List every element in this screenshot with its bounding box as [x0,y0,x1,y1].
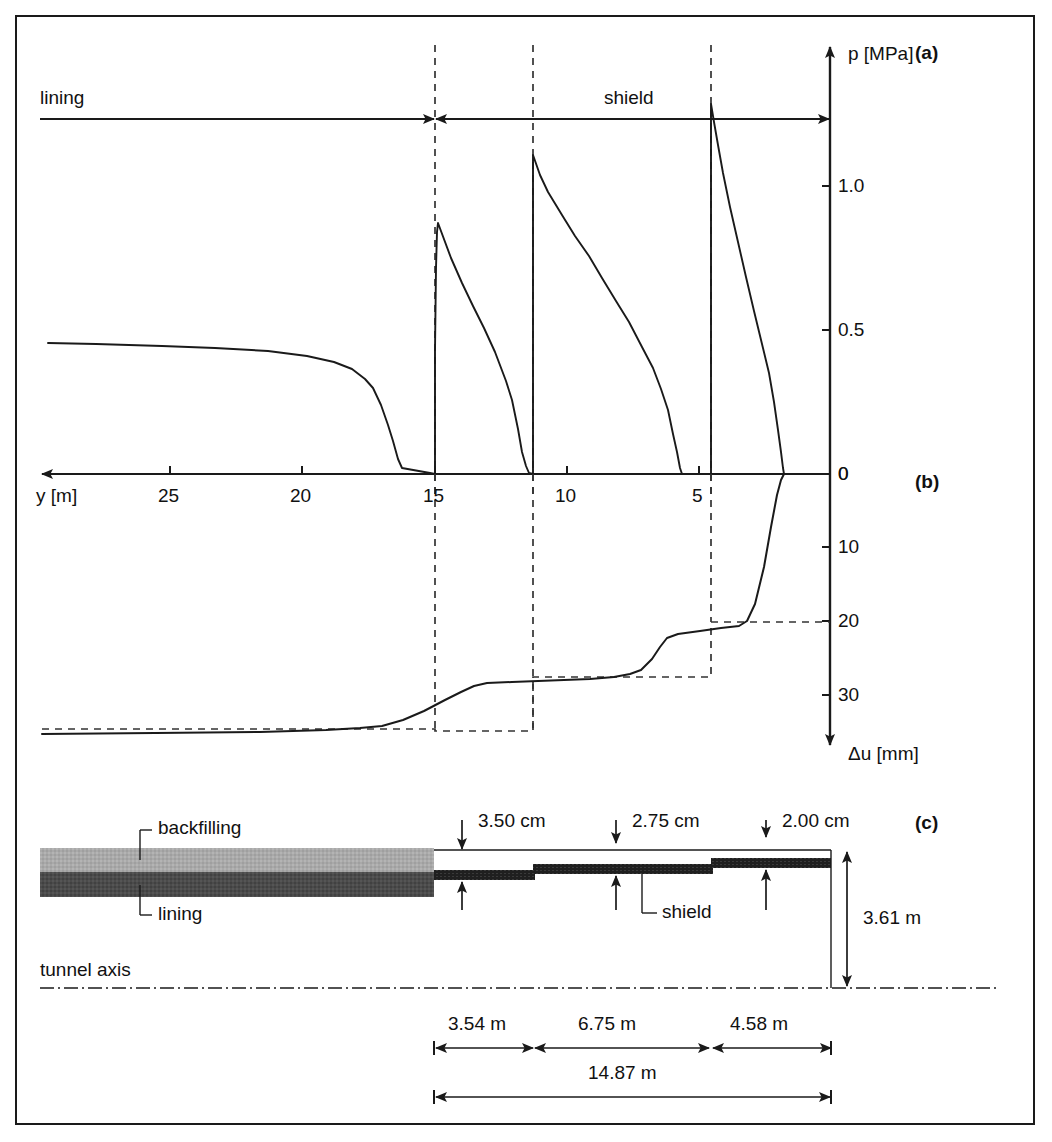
panel-a-xtick-5: 5 [692,486,703,505]
panel-label-a: (a) [915,43,938,62]
panel-label-c: (c) [915,813,938,832]
gap-dimension-1: 3.50 cm [478,811,546,830]
length-dimension-2: 6.75 m [578,1014,636,1033]
panel-b-axis-symbol: Δu [848,743,871,764]
panel-label-b: (b) [915,472,939,491]
panel-a-axis-label: p [MPa] [848,44,913,63]
panel-a-x-axis-symbol: y [36,485,46,506]
gap-dimension-2: 2.75 cm [632,811,700,830]
region-label-shield: shield [604,88,654,107]
panel-a-xtick-20: 20 [290,486,311,505]
callout-tunnel-axis: tunnel axis [40,960,131,979]
gap-dimension-3: 2.00 cm [782,811,850,830]
callout-lining: lining [158,904,202,923]
panel-a-x-axis-label: y [m] [36,486,77,505]
total-length-dimension: 14.87 m [588,1063,657,1082]
panel-a-x-axis-unit: [m] [46,485,78,506]
callout-backfilling: backfilling [158,818,241,837]
region-label-lining: lining [40,88,84,107]
panel-a-xtick-25: 25 [158,486,179,505]
panel-a-ytick-2: 0.5 [838,320,864,339]
length-dimension-3: 4.58 m [730,1014,788,1033]
panel-a-ytick-1: 1.0 [838,176,864,195]
panel-a-xtick-15: 15 [423,486,444,505]
panel-b-ytick-10: 10 [838,537,859,556]
panel-a-xtick-0: 0 [838,464,849,483]
panel-a-xtick-10: 10 [555,486,576,505]
panel-b-ytick-30: 30 [838,685,859,704]
length-dimension-1: 3.54 m [448,1014,506,1033]
panel-b-axis-unit: [mm] [871,743,919,764]
height-dimension: 3.61 m [863,908,921,927]
figure-root: (a) (b) (c) lining shield p [MPa] 1.0 0.… [0,0,1052,1142]
figure-border [15,15,1035,1125]
callout-shield: shield [662,902,712,921]
panel-b-ytick-20: 20 [838,611,859,630]
panel-b-axis-label: Δu [mm] [848,744,919,763]
